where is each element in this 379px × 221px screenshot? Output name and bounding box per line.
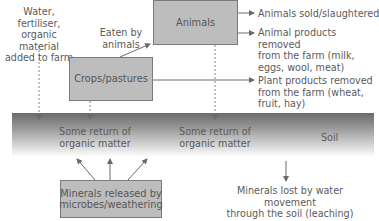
animals-box: Animals	[153, 0, 238, 45]
minerals-arrow-right	[128, 159, 147, 180]
inputs-label: Water, fertiliser, organic material adde…	[2, 6, 76, 64]
soil-return-left-label: Some return of organic matter	[55, 126, 135, 149]
soil-label: Soil	[321, 132, 338, 144]
animal-products-label: Animal products removed from the farm (m…	[258, 27, 379, 73]
minerals-arrow-left	[77, 159, 95, 180]
leaching-label: Minerals lost by water movement through …	[215, 185, 365, 220]
soil-return-right-label: Some return of organic matter	[175, 126, 255, 149]
plant-products-label: Plant products removed from the farm (wh…	[258, 75, 373, 110]
animals-box-label: Animals	[176, 17, 215, 29]
eaten-label: Eaten by animals	[96, 27, 146, 50]
crops-box: Crops/pastures	[69, 57, 153, 101]
crops-box-label: Crops/pastures	[74, 73, 148, 85]
minerals-box: Minerals released by microbes/weathering	[60, 180, 162, 218]
animals-sold-label: Animals sold/slaughtered	[258, 8, 379, 20]
minerals-box-label: Minerals released by microbes/weathering	[59, 188, 162, 211]
